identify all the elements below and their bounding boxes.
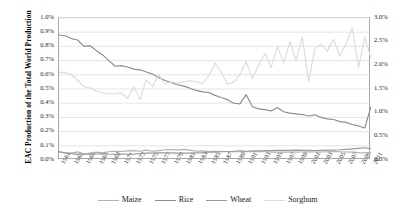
legend-swatch-maize	[98, 200, 119, 201]
y-axis-left-tick-label: 0.2%	[28, 127, 54, 134]
legend-swatch-wheat	[206, 200, 227, 201]
legend-label: Sorghum	[288, 196, 317, 204]
legend-label: Wheat	[230, 196, 251, 204]
y-axis-right-tick-label: 3.0%	[374, 14, 400, 21]
y-axis-left-tick-label: 0.7%	[28, 56, 54, 63]
legend-swatch-sorghum	[264, 200, 285, 201]
y-axis-left-tick-label: 0.0%	[28, 156, 54, 163]
legend-label: Maize	[122, 196, 142, 204]
y-axis-left-tick-label: 0.8%	[28, 42, 54, 49]
plot-area	[58, 17, 370, 159]
legend-swatch-rice	[155, 200, 176, 201]
y-axis-right-tick-label: 1.0%	[374, 108, 400, 115]
series-line-sorghum	[59, 27, 371, 99]
legend-item-sorghum[interactable]: Sorghum	[264, 196, 317, 204]
y-axis-left-tick-label: 0.5%	[28, 85, 54, 92]
legend-item-maize[interactable]: Maize	[98, 196, 142, 204]
series-line-rice	[59, 35, 371, 128]
y-axis-right-tick-label: 2.0%	[374, 61, 400, 68]
series-canvas	[59, 18, 371, 160]
chart-container: EAC Production of the Total World Produc…	[0, 0, 415, 219]
y-axis-left-tick-label: 0.3%	[28, 113, 54, 120]
legend-item-rice[interactable]: Rice	[155, 196, 194, 204]
y-axis-left-tick-label: 0.1%	[28, 142, 54, 149]
legend-item-wheat[interactable]: Wheat	[206, 196, 251, 204]
y-axis-left-tick-label: 0.4%	[28, 99, 54, 106]
y-axis-right-tick-label: 1.5%	[374, 85, 400, 92]
y-axis-left-tick-label: 1.0%	[28, 14, 54, 21]
chart-legend: MaizeRiceWheatSorghum	[0, 196, 415, 204]
y-axis-right-tick-label: 0.5%	[374, 132, 400, 139]
y-axis-left-tick-label: 0.6%	[28, 71, 54, 78]
legend-label: Rice	[179, 196, 194, 204]
y-axis-left-tick-label: 0.9%	[28, 28, 54, 35]
y-axis-right-tick-label: 2.5%	[374, 37, 400, 44]
